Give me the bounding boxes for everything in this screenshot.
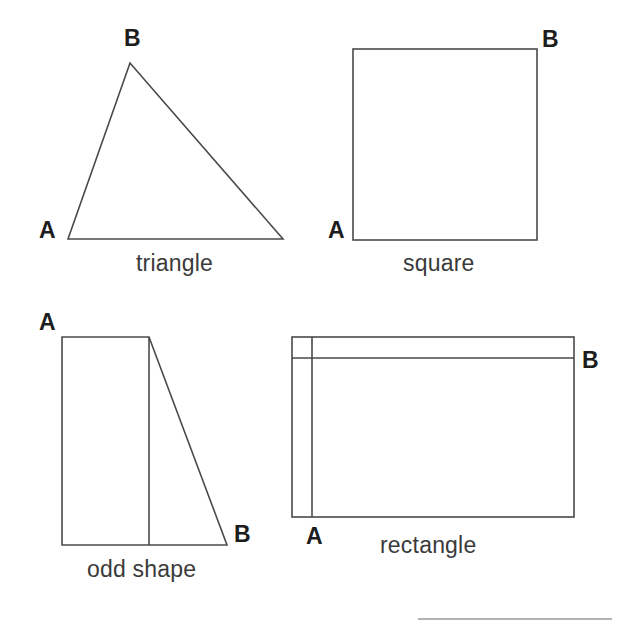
triangle-shape	[68, 63, 283, 239]
odd-shape-outline	[62, 337, 227, 545]
rectangle-vertex-label-b: B	[582, 349, 599, 372]
square-vertex-label-a: A	[328, 219, 345, 242]
rectangle-shape	[292, 337, 574, 517]
odd-shape-caption: odd shape	[87, 558, 196, 581]
odd-shape-vertex-label-a: A	[39, 311, 56, 334]
square-shape	[353, 49, 537, 240]
rectangle-caption: rectangle	[380, 534, 476, 557]
triangle-caption: triangle	[136, 252, 213, 275]
triangle-vertex-label-b: B	[124, 27, 141, 50]
triangle-vertex-label-a: A	[39, 219, 56, 242]
square-vertex-label-b: B	[542, 28, 559, 51]
odd-shape-vertex-label-b: B	[234, 523, 251, 546]
rectangle-vertex-label-a: A	[306, 525, 323, 548]
square-caption: square	[403, 252, 475, 275]
